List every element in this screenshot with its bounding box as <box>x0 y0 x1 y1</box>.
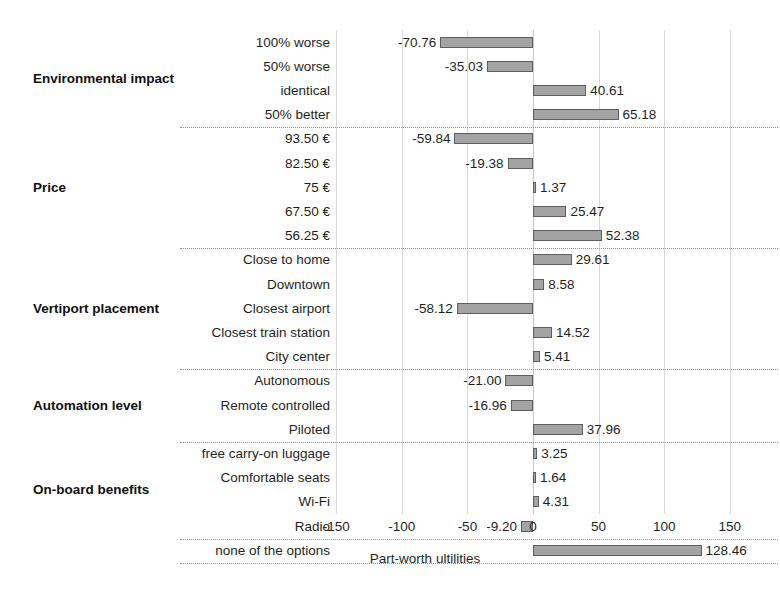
bar <box>533 85 586 96</box>
group-label: Environmental impact <box>33 71 174 87</box>
bar-value-label: -58.12 <box>414 297 452 321</box>
bar-value-label: 52.38 <box>606 224 640 248</box>
chart-row: 67.50 €25.47 <box>0 200 780 224</box>
bar <box>440 37 533 48</box>
bar <box>533 424 583 435</box>
chart-row: 100% worse-70.76 <box>0 31 780 55</box>
category-label: Radio <box>0 515 337 539</box>
category-label: 50% better <box>0 103 337 127</box>
bar-value-label: 1.64 <box>540 466 566 490</box>
category-label: 67.50 € <box>0 200 337 224</box>
bar-value-label: 4.31 <box>543 490 569 514</box>
chart-row: Downtown8.58 <box>0 273 780 297</box>
x-axis-tick--150: -150 <box>306 519 366 534</box>
bar <box>533 496 539 507</box>
chart-row: Closest train station14.52 <box>0 321 780 345</box>
bar <box>533 109 619 120</box>
chart-row: 56.25 €52.38 <box>0 224 780 248</box>
category-label: Close to home <box>0 248 337 272</box>
bar <box>533 472 536 483</box>
group-divider <box>180 369 778 370</box>
group-divider <box>180 248 778 249</box>
chart-row: 50% better65.18 <box>0 103 780 127</box>
category-label: 100% worse <box>0 31 337 55</box>
bar <box>454 133 533 144</box>
x-axis-tick-50: 50 <box>569 519 629 534</box>
x-axis-title-text: Part-worth ultilities <box>370 551 480 566</box>
category-label: Closest train station <box>0 321 337 345</box>
chart-row: free carry-on luggage3.25 <box>0 442 780 466</box>
chart-row: 93.50 €-59.84 <box>0 127 780 151</box>
bar <box>533 206 566 217</box>
chart-row: Autonomous-21.00 <box>0 369 780 393</box>
group-divider <box>180 539 778 540</box>
x-axis-title: Part-worth ultilities <box>0 551 780 566</box>
bar <box>457 303 533 314</box>
x-axis-tick-100: 100 <box>634 519 694 534</box>
category-label: free carry-on luggage <box>0 442 337 466</box>
bar-value-label: 5.41 <box>544 345 570 369</box>
bar-value-label: -21.00 <box>463 369 501 393</box>
bar-value-label: 1.37 <box>540 176 566 200</box>
bar <box>533 279 544 290</box>
x-axis-tick-150: 150 <box>700 519 760 534</box>
bar-value-label: 40.61 <box>590 79 624 103</box>
bar-value-label: -19.38 <box>465 152 503 176</box>
x-axis-tick-0: 0 <box>503 519 563 534</box>
bar <box>511 400 533 411</box>
bar-value-label: 37.96 <box>587 418 621 442</box>
group-label: On-board benefits <box>33 482 149 498</box>
bar <box>533 351 540 362</box>
chart-row: 82.50 €-19.38 <box>0 152 780 176</box>
bar-value-label: -35.03 <box>445 55 483 79</box>
bar <box>533 182 536 193</box>
category-label: 93.50 € <box>0 127 337 151</box>
category-label: Autonomous <box>0 369 337 393</box>
chart-row: Piloted37.96 <box>0 418 780 442</box>
group-divider <box>180 127 778 128</box>
bar-value-label: -16.96 <box>468 394 506 418</box>
chart-row: 75 €1.37 <box>0 176 780 200</box>
group-label: Price <box>33 180 66 196</box>
bar <box>533 448 537 459</box>
group-label: Vertiport placement <box>33 301 159 317</box>
bar <box>533 230 602 241</box>
bar-value-label: 65.18 <box>623 103 657 127</box>
x-axis-tick--100: -100 <box>372 519 432 534</box>
bar <box>487 61 533 72</box>
bar <box>505 375 533 386</box>
group-divider <box>180 442 778 443</box>
chart-row: City center5.41 <box>0 345 780 369</box>
category-label: 56.25 € <box>0 224 337 248</box>
part-worth-utilities-chart: 100% worse-70.7650% worse-35.03identical… <box>0 0 780 599</box>
chart-row: Close to home29.61 <box>0 248 780 272</box>
bar-value-label: 25.47 <box>570 200 604 224</box>
bar-value-label: 8.58 <box>548 273 574 297</box>
bar-value-label: -70.76 <box>398 31 436 55</box>
group-label: Automation level <box>33 398 142 414</box>
category-label: Downtown <box>0 273 337 297</box>
bar-value-label: 29.61 <box>576 248 610 272</box>
plot-area: 100% worse-70.7650% worse-35.03identical… <box>0 0 780 599</box>
bar <box>533 254 572 265</box>
category-label: Piloted <box>0 418 337 442</box>
bar <box>508 158 533 169</box>
category-label: 82.50 € <box>0 152 337 176</box>
bar-value-label: 3.25 <box>541 442 567 466</box>
category-label: City center <box>0 345 337 369</box>
bar-value-label: 14.52 <box>556 321 590 345</box>
bar-value-label: -59.84 <box>412 127 450 151</box>
bar <box>533 327 552 338</box>
x-axis-tick--50: -50 <box>437 519 497 534</box>
